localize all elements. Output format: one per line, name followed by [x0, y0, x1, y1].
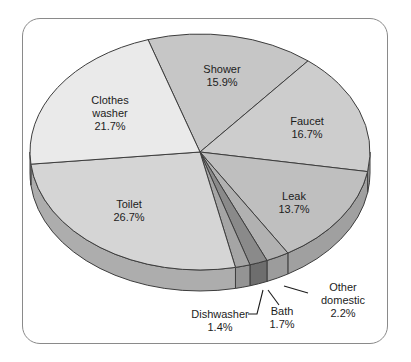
leader-line-bath	[268, 290, 279, 305]
pie-chart-figure: Shower 15.9%Faucet 16.7%Leak 13.7%Other …	[0, 0, 411, 362]
pie-chart	[0, 0, 411, 362]
pie-slice-toilet	[31, 152, 236, 270]
leader-line-other-domestic	[284, 286, 308, 293]
pie-slice-side-dishwasher	[235, 265, 249, 289]
leader-line-dishwasher	[248, 290, 263, 314]
